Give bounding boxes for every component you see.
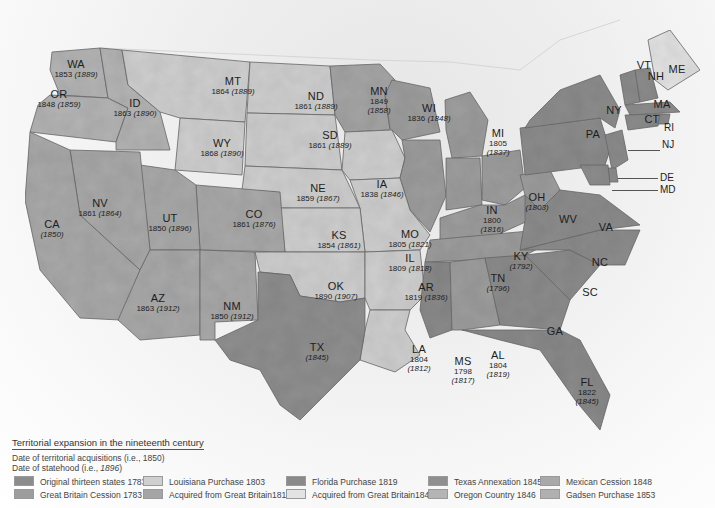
state-label-de: DE bbox=[660, 172, 674, 183]
state-abbr: IN bbox=[480, 204, 503, 216]
state-label-nm: NM1850 (1912) bbox=[210, 300, 253, 321]
state-abbr: GA bbox=[547, 325, 563, 337]
state-abbr: WI bbox=[407, 102, 450, 114]
legend-swatch bbox=[14, 489, 34, 499]
state-label-id: ID1863 (1890) bbox=[113, 97, 156, 118]
legend-swatch bbox=[143, 489, 163, 499]
acquisition-year: 1861 bbox=[78, 209, 98, 218]
state-label-az: AZ1863 (1912) bbox=[136, 292, 179, 313]
state-label-mo: MO1805 (1821) bbox=[388, 228, 431, 249]
state-abbr: AZ bbox=[136, 292, 179, 304]
legend-swatch bbox=[540, 476, 560, 486]
legend-label: Florida Purchase 1819 bbox=[312, 477, 398, 487]
legend-item: Mexican Cession 1848 bbox=[540, 476, 652, 487]
acquisition-year: 1861 bbox=[308, 141, 328, 150]
state-label-ia: IA1838 (1846) bbox=[360, 178, 403, 199]
state-abbr: NY bbox=[606, 104, 622, 116]
state-label-tn: TN(1796) bbox=[486, 272, 509, 293]
state-label-il: IL1809 (1818) bbox=[388, 252, 431, 273]
state-label-mi: MI1805 (1837) bbox=[486, 127, 509, 157]
state-label-ca: CA(1850) bbox=[40, 218, 63, 239]
leader-line-de bbox=[618, 178, 658, 179]
statehood-year: (1845) bbox=[305, 353, 328, 362]
statehood-note-suffix: ) bbox=[119, 463, 122, 473]
state-abbr: MA bbox=[654, 98, 671, 110]
statehood-year: (1812) bbox=[407, 364, 430, 373]
legend-label: Gadsen Purchase 1853 bbox=[566, 490, 655, 500]
state-label-ky: KY(1792) bbox=[509, 250, 532, 271]
state-label-sd: SD1861 (1889) bbox=[308, 129, 351, 150]
legend-item: Original thirteen states 1783 bbox=[14, 476, 146, 487]
map-canvas bbox=[0, 0, 715, 508]
state-label-sc: SC bbox=[582, 286, 598, 298]
state-label-pa: PA bbox=[586, 128, 600, 140]
acquisition-year: 1809 bbox=[388, 264, 408, 273]
acquisition-year: 1890 bbox=[314, 292, 334, 301]
state-label-ut: UT1850 (1896) bbox=[148, 212, 191, 233]
state-label-ks: KS1854 (1861) bbox=[317, 229, 360, 250]
state-abbr: IL bbox=[388, 252, 431, 264]
acquisition-year: 1861 bbox=[232, 220, 252, 229]
legend-swatch bbox=[428, 476, 448, 486]
acquisition-year: 1804 bbox=[410, 355, 428, 364]
acquisition-year: 1804 bbox=[489, 361, 507, 370]
state-label-ny: NY bbox=[606, 104, 622, 116]
acquisition-year: 1863 bbox=[136, 304, 156, 313]
state-label-ne: NE1859 (1867) bbox=[296, 182, 339, 203]
acquisition-year: 1819 bbox=[404, 293, 424, 302]
state-label-fl: FL1822 (1845) bbox=[575, 376, 598, 406]
legend-item: Louisiana Purchase 1803 bbox=[143, 476, 265, 487]
statehood-note-prefix: Date of statehood (i.e., bbox=[12, 463, 100, 473]
state-label-nc: NC bbox=[592, 256, 608, 268]
statehood-year: (1821) bbox=[408, 240, 431, 249]
statehood-year: (1858) bbox=[367, 106, 390, 115]
acquisition-year: 1868 bbox=[200, 149, 220, 158]
legend-item: Florida Purchase 1819 bbox=[286, 476, 398, 487]
statehood-year: (1867) bbox=[316, 194, 339, 203]
state-abbr: CA bbox=[40, 218, 63, 230]
legend-title: Territorial expansion in the nineteenth … bbox=[12, 437, 204, 450]
state-label-wv: WV bbox=[559, 213, 577, 225]
state-abbr: ID bbox=[113, 97, 156, 109]
legend-statehood-note: Date of statehood (i.e., 1896) bbox=[12, 463, 204, 473]
legend-label: Acquired from Great Britain1842 bbox=[312, 490, 434, 500]
state-abbr: ND bbox=[294, 90, 337, 102]
state-abbr: UT bbox=[148, 212, 191, 224]
acquisition-year: 1805 bbox=[388, 240, 408, 249]
statehood-year: (1803) bbox=[525, 203, 548, 212]
statehood-year: (1846) bbox=[380, 190, 403, 199]
state-abbr: WY bbox=[200, 137, 243, 149]
state-abbr: PA bbox=[586, 128, 600, 140]
acquisition-year: 1859 bbox=[296, 194, 316, 203]
legend-label: Original thirteen states 1783 bbox=[40, 477, 146, 487]
state-abbr: KS bbox=[317, 229, 360, 241]
state-abbr: SD bbox=[308, 129, 351, 141]
state-abbr: ME bbox=[669, 63, 686, 75]
statehood-year: (1890) bbox=[220, 149, 243, 158]
state-label-ga: GA bbox=[547, 325, 563, 337]
legend-label: Acquired from Great Britain1818 bbox=[169, 490, 291, 500]
statehood-year: (1819) bbox=[486, 370, 509, 379]
state-label-ma: MA bbox=[654, 98, 671, 110]
state-abbr: SC bbox=[582, 286, 598, 298]
statehood-year: (1816) bbox=[480, 225, 503, 234]
state-abbr: TN bbox=[486, 272, 509, 284]
statehood-year: (1836) bbox=[424, 293, 447, 302]
state-abbr: IA bbox=[360, 178, 403, 190]
acquisition-year: 1798 bbox=[454, 367, 472, 376]
legend-label: Oregon Country 1846 bbox=[454, 490, 536, 500]
legend-label: Mexican Cession 1848 bbox=[566, 477, 652, 487]
acquisition-year: 1838 bbox=[360, 190, 380, 199]
state-abbr: VA bbox=[599, 221, 613, 233]
statehood-year: (1817) bbox=[451, 376, 474, 385]
state-abbr: LA bbox=[407, 343, 430, 355]
acquisition-year: 1836 bbox=[407, 114, 427, 123]
statehood-year: (1796) bbox=[486, 284, 509, 293]
state-label-wi: WI1836 (1848) bbox=[407, 102, 450, 123]
state-abbr: CO bbox=[232, 208, 275, 220]
statehood-year: (1889) bbox=[314, 102, 337, 111]
legend-item: Texas Annexation 1845 bbox=[428, 476, 542, 487]
state-label-ms: MS1798 (1817) bbox=[451, 355, 474, 385]
state-label-nh: NH bbox=[648, 70, 664, 82]
statehood-note-year: 1896 bbox=[100, 463, 119, 473]
